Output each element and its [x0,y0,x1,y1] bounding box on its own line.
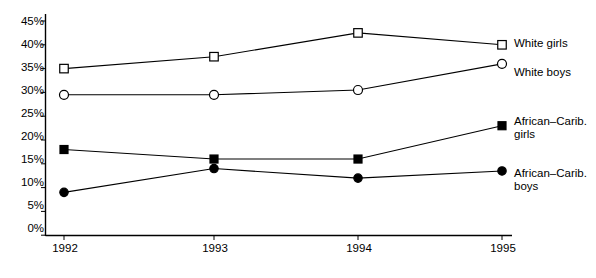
series-line [64,126,502,159]
chart-plot [0,0,596,278]
series-line [64,33,502,69]
data-point-marker [210,52,219,61]
data-point-marker [210,164,218,172]
data-point-marker [210,155,218,163]
data-point-marker [354,174,362,182]
data-point-marker [210,90,219,99]
data-point-marker [498,167,506,175]
chart-container: 45% 40% 35% 30% 25% 20% 15% 10% 5% 0% 19… [0,0,596,278]
data-point-marker [60,188,68,196]
data-point-marker [498,41,507,50]
data-point-marker [60,146,68,154]
data-point-marker [60,64,69,73]
series-layer [60,29,507,197]
data-point-marker [498,122,506,130]
data-point-marker [354,29,363,38]
data-point-marker [60,90,69,99]
data-point-marker [498,59,507,68]
series-line [64,169,502,193]
series-line [64,64,502,95]
data-point-marker [354,86,363,95]
data-point-marker [354,155,362,163]
